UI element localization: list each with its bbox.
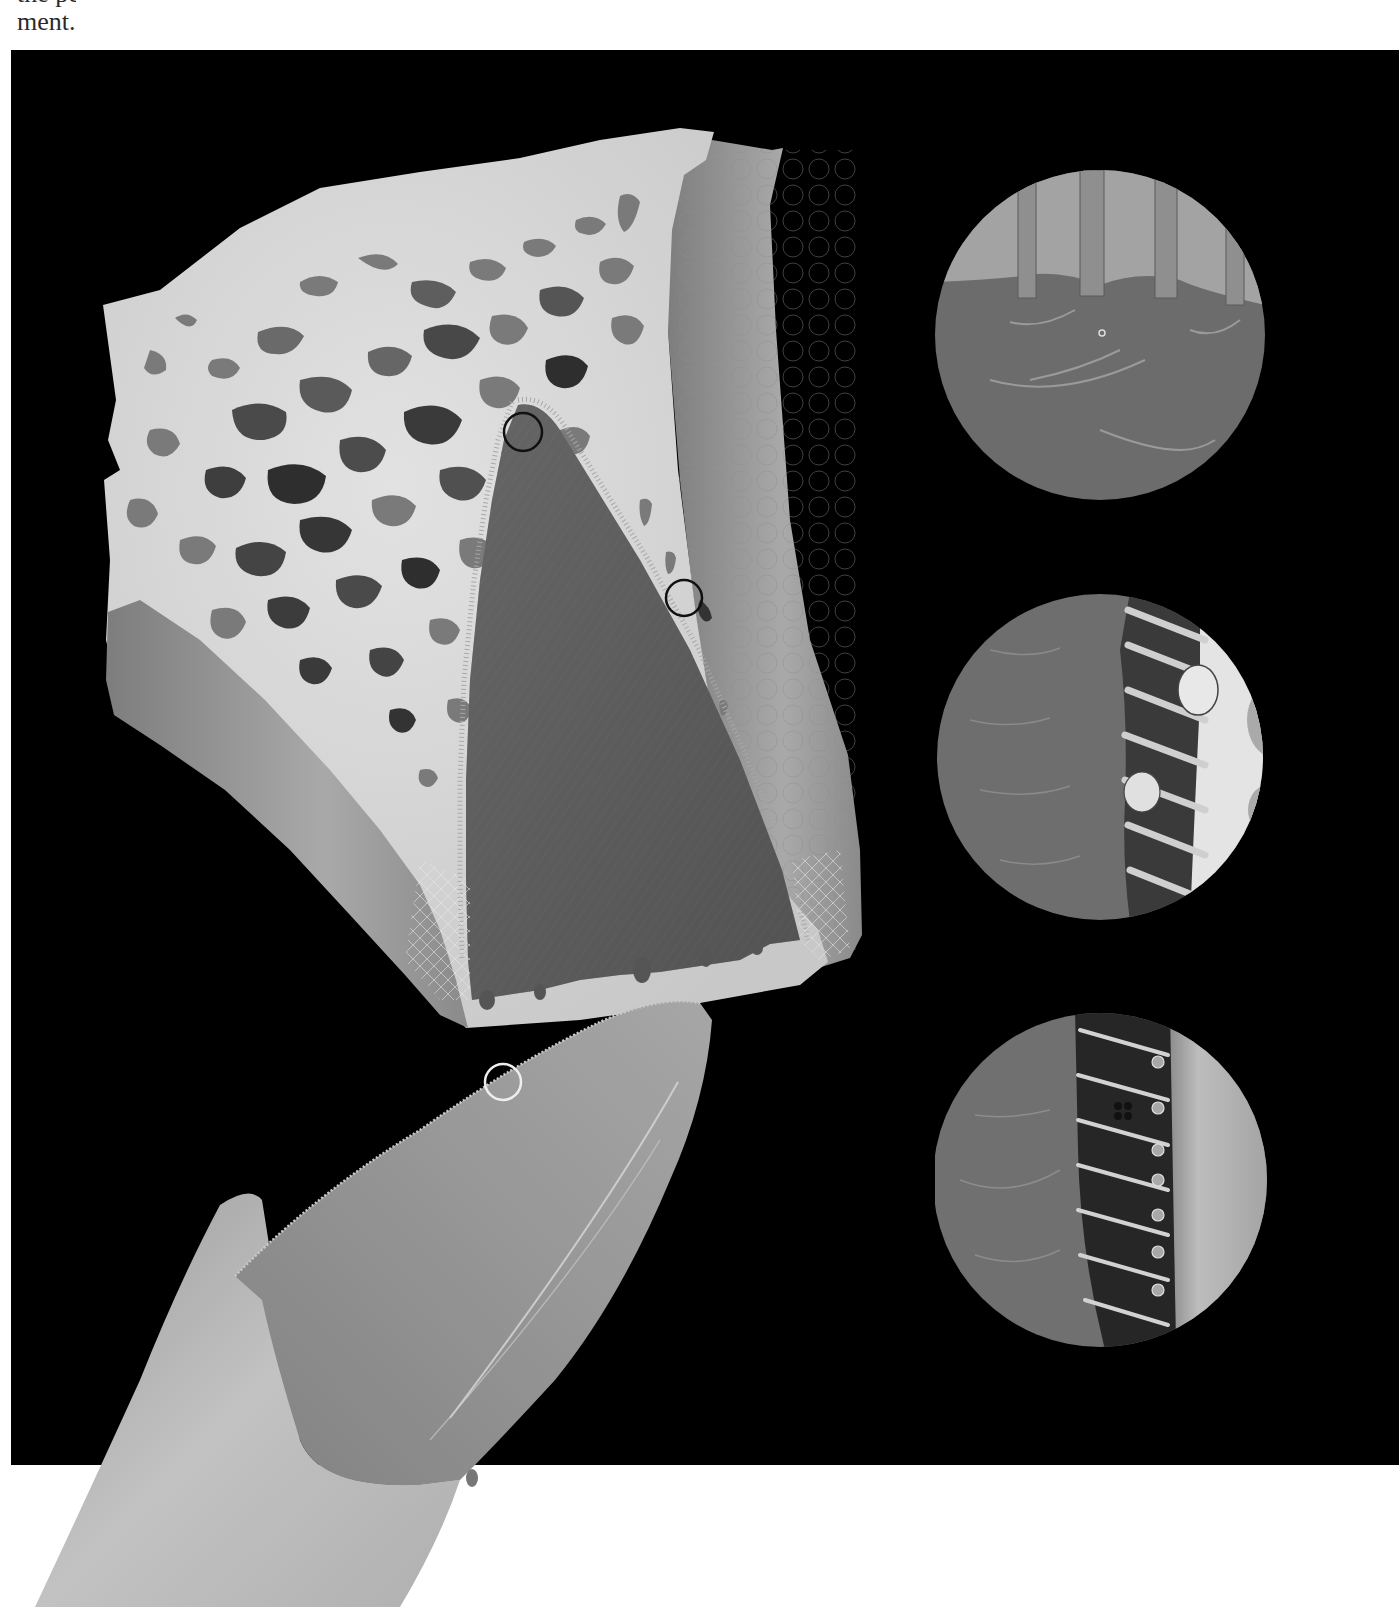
inset-top[interactable]	[935, 170, 1265, 500]
anatomy-figure	[0, 0, 1399, 1607]
